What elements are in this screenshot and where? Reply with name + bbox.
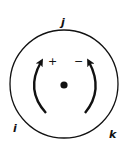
left-arrow-icon (34, 62, 46, 113)
label-i: i (13, 122, 17, 135)
minus-sign: − (74, 55, 83, 68)
center-dot (60, 81, 67, 88)
label-j: j (59, 16, 65, 29)
label-k: k (109, 128, 117, 141)
right-arrow-icon (85, 62, 96, 113)
cyclic-rotation-diagram: j i k + − (0, 0, 126, 146)
plus-sign: + (48, 55, 57, 68)
